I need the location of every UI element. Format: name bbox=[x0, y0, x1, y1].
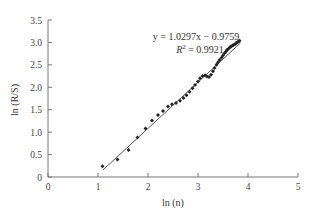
data-point bbox=[127, 148, 131, 152]
x-tick-label: 1 bbox=[96, 182, 101, 192]
data-point bbox=[150, 118, 154, 122]
x-tick-label: 4 bbox=[246, 182, 251, 192]
data-points bbox=[101, 39, 242, 169]
x-tick-label: 5 bbox=[296, 182, 301, 192]
r-squared-label: R2 = 0.9921 bbox=[175, 43, 224, 55]
trendline bbox=[103, 43, 241, 170]
data-point bbox=[170, 102, 174, 106]
y-tick-label: 0.5 bbox=[30, 150, 42, 160]
x-axis-title: ln (n) bbox=[162, 197, 184, 209]
y-tick-label: 3.0 bbox=[30, 38, 42, 48]
y-tick-label: 0 bbox=[37, 173, 42, 183]
y-tick-label: 2.5 bbox=[30, 60, 42, 70]
y-axis-title: ln (R/S) bbox=[9, 84, 21, 116]
data-point bbox=[156, 113, 160, 117]
data-point bbox=[191, 86, 195, 90]
x-axis: 012345 bbox=[46, 173, 301, 192]
regression-equation: y = 1.0297x − 0.9759 bbox=[153, 31, 239, 42]
y-tick-label: 1.5 bbox=[30, 105, 42, 115]
y-tick-label: 2.0 bbox=[30, 83, 42, 93]
data-point bbox=[188, 90, 192, 94]
y-tick-label: 1.0 bbox=[30, 128, 42, 138]
data-point bbox=[161, 109, 165, 113]
y-axis: 00.51.01.52.02.53.03.5 bbox=[30, 16, 52, 183]
x-tick-label: 3 bbox=[196, 182, 201, 192]
x-tick-label: 0 bbox=[46, 182, 51, 192]
y-tick-label: 3.5 bbox=[30, 16, 42, 26]
scatter-chart: 00.51.01.52.02.53.03.5 012345 y = 1.0297… bbox=[0, 0, 314, 222]
data-point bbox=[101, 164, 105, 168]
data-point bbox=[178, 99, 182, 103]
x-tick-label: 2 bbox=[146, 182, 151, 192]
